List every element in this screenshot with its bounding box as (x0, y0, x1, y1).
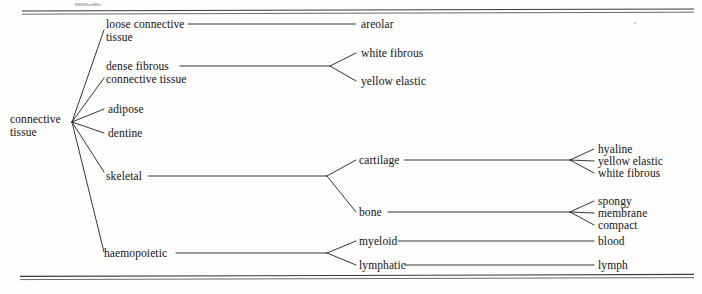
edge-fork-to-cartilage (327, 160, 356, 176)
edge-fork-to-spongy (570, 201, 594, 212)
edge-root-to-haemopoietic (72, 122, 104, 252)
node-myeloid: myeloid (359, 235, 397, 248)
node-loose-connective-tissue-line1: loose connective (106, 18, 185, 30)
node-dentine: dentine (108, 127, 143, 140)
node-cartilage: cartilage (359, 154, 399, 167)
node-areolar: areolar (361, 18, 394, 31)
node-loose-connective-tissue: loose connective tissue (106, 18, 185, 43)
node-lymph: lymph (598, 259, 628, 272)
edge-fork-to-white-fibrous (330, 53, 356, 66)
node-haemopoietic: haemopoietic (104, 247, 167, 260)
edge-fork-to-myeloid (327, 241, 356, 253)
node-dense-fibrous-line1: dense fibrous (106, 60, 169, 72)
node-hyaline: hyaline (598, 143, 633, 156)
edge-fork-to-bone (327, 176, 356, 212)
node-white-fibrous: white fibrous (361, 47, 423, 60)
edge-root-to-loose (72, 30, 104, 122)
edge-fork-to-compact (570, 212, 594, 225)
node-bone: bone (359, 206, 382, 219)
node-yellow-elastic: yellow elastic (361, 75, 426, 88)
node-dense-fibrous-connective-tissue: dense fibrous connective tissue (106, 60, 187, 85)
node-compact: compact (598, 219, 638, 232)
node-spongy: spongy (598, 195, 632, 208)
node-connective-tissue: connective tissue (10, 113, 61, 138)
node-connective-tissue-line2: tissue (10, 126, 37, 138)
node-connective-tissue-line1: connective (10, 113, 61, 125)
edge-fork-to-yellow-elastic (330, 66, 356, 81)
edge-fork-to-cart-white-fibrous (570, 160, 594, 173)
node-cartilage-white-fibrous: white fibrous (598, 167, 660, 180)
node-skeletal: skeletal (106, 170, 142, 183)
edge-fork-to-hyaline (570, 149, 594, 160)
node-blood: blood (598, 235, 625, 248)
connective-tissue-tree-figure: connective tissue loose connective tissu… (0, 0, 702, 294)
node-cartilage-yellow-elastic: yellow elastic (598, 155, 663, 168)
edge-fork-to-lymphatic (327, 253, 356, 265)
node-loose-connective-tissue-line2: tissue (106, 31, 133, 43)
edge-root-to-dentine (72, 122, 104, 133)
edge-fork-to-membrane (570, 212, 594, 213)
edge-root-to-skeletal (72, 122, 104, 172)
edge-fork-to-cart-yellow-elastic (570, 160, 594, 161)
node-dense-fibrous-line2: connective tissue (106, 73, 187, 85)
node-lymphatic: lymphatic (359, 259, 406, 272)
node-membrane: membrane (598, 207, 647, 220)
node-adipose: adipose (108, 103, 144, 116)
